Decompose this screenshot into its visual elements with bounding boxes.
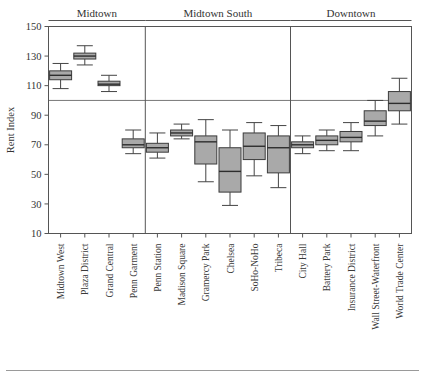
panel-group-label: Midtown South xyxy=(184,7,253,19)
y-axis-title: Rent Index xyxy=(5,106,16,153)
y-tick-label: 30 xyxy=(31,199,42,210)
y-tick-label: 10 xyxy=(31,228,42,239)
x-category-label: Penn Station xyxy=(153,243,163,292)
panel-group-label: Midtown xyxy=(77,7,118,19)
box-iqr xyxy=(98,81,120,85)
y-tick-label: 90 xyxy=(31,110,42,121)
box-iqr xyxy=(122,139,144,148)
box-iqr xyxy=(195,136,217,164)
x-category-label: Grand Central xyxy=(105,243,115,297)
chart-background xyxy=(0,0,425,385)
boxplot-figure: Rent Index MidtownMidtown SouthDowntown … xyxy=(0,0,425,385)
y-tick-label: 50 xyxy=(31,169,42,180)
box-iqr xyxy=(340,131,362,141)
panel-group-label: Downtown xyxy=(327,7,376,19)
box-iqr xyxy=(364,111,386,126)
y-tick-label: 150 xyxy=(26,21,42,32)
x-category-label: Gramercy Park xyxy=(201,243,211,301)
x-category-label: Tribeca xyxy=(274,243,284,272)
y-axis-title-text: Rent Index xyxy=(5,106,16,153)
panel-group-labels: MidtownMidtown SouthDowntown xyxy=(49,7,412,21)
y-tick-label: 110 xyxy=(26,80,41,91)
x-category-label: Insurance District xyxy=(347,243,357,311)
x-category-label: Penn Garment xyxy=(129,243,139,298)
x-category-label: World Trade Center xyxy=(395,243,405,319)
x-category-label: SoHo-NoHo xyxy=(250,243,260,291)
box-iqr xyxy=(267,136,289,173)
rent-index-boxplot: Rent Index MidtownMidtown SouthDowntown … xyxy=(0,0,425,385)
box-iqr xyxy=(219,148,241,192)
y-tick-label: 130 xyxy=(26,51,42,62)
x-category-label: City Hall xyxy=(298,243,308,278)
x-category-label: Chelsea xyxy=(226,243,236,274)
x-category-label: Plaza District xyxy=(80,243,90,295)
y-tick-label: 70 xyxy=(31,139,42,150)
box-iqr xyxy=(388,92,410,111)
x-category-label: Madison Square xyxy=(177,244,187,306)
x-category-label: Midtown West xyxy=(56,243,66,299)
x-category-label: Battery Park xyxy=(322,243,332,291)
x-category-label: Wall Street-Waterfront xyxy=(371,243,381,330)
